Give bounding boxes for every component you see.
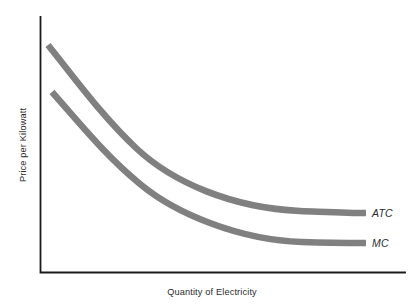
mc-curve-label: MC — [372, 237, 389, 249]
x-axis-label: Quantity of Electricity — [167, 287, 257, 297]
atc-curve — [48, 45, 366, 213]
y-axis-label: Price per Kilowatt — [18, 108, 28, 182]
mc-curve — [52, 92, 366, 243]
chart-canvas: ATC MC Quantity of Electricity Price per… — [0, 0, 420, 304]
cost-curves-chart: ATC MC Quantity of Electricity Price per… — [0, 0, 420, 304]
atc-curve-label: ATC — [371, 207, 393, 219]
